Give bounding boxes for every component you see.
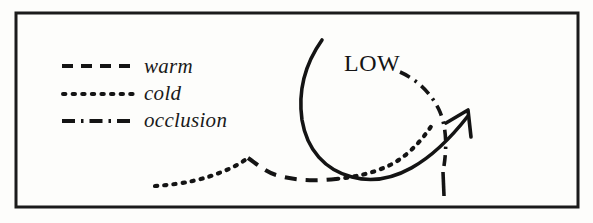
occlusion-front-tail xyxy=(443,172,444,196)
legend-label-warm: warm xyxy=(144,54,193,79)
airflow-arrowhead-icon xyxy=(446,110,471,137)
legend-label-occlusion: occlusion xyxy=(144,108,227,133)
legend-label-cold: cold xyxy=(144,81,181,106)
cold-front-west xyxy=(155,158,248,186)
figure-canvas xyxy=(0,0,593,223)
low-pressure-label: LOW xyxy=(344,50,400,77)
border-frame xyxy=(16,13,578,207)
cold-front-east xyxy=(336,122,434,179)
weather-front-figure: warm cold occlusion LOW xyxy=(0,0,593,223)
occlusion-front xyxy=(400,72,446,172)
